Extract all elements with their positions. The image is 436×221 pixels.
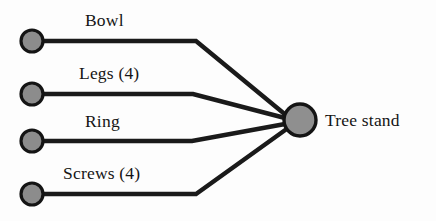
assembly-node-tree-stand[interactable] (284, 104, 316, 136)
component-node-bowl[interactable] (21, 30, 43, 52)
edge-legs-to-tree-stand (43, 94, 285, 118)
assembly-diagram: Bowl Legs (4) Ring Screws (4) Tree stand (0, 0, 436, 221)
component-label-legs: Legs (4) (79, 63, 139, 84)
edge-ring-to-tree-stand (43, 124, 285, 141)
component-label-ring: Ring (85, 111, 120, 132)
component-label-screws: Screws (4) (63, 163, 140, 184)
assembly-label-tree-stand: Tree stand (325, 110, 400, 131)
component-node-screws[interactable] (21, 183, 43, 205)
component-node-ring[interactable] (21, 130, 43, 152)
edge-screws-to-tree-stand (43, 128, 288, 194)
component-label-bowl: Bowl (85, 10, 124, 31)
component-node-legs[interactable] (21, 83, 43, 105)
